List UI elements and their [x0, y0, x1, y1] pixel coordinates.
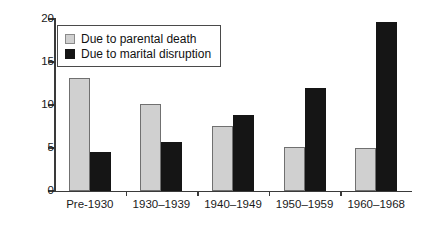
x-category-label: 1960–1968 — [331, 198, 421, 211]
legend-label: Due to marital disruption — [81, 48, 211, 60]
y-tick-label: 20 — [12, 13, 54, 25]
bar-chart: 05101520 Pre-19301930–19391940–19491950–… — [0, 0, 434, 231]
bar — [305, 88, 326, 191]
legend-label: Due to parental death — [81, 33, 196, 45]
bar — [233, 115, 254, 191]
bar — [90, 152, 111, 191]
x-tick-mark — [126, 191, 128, 196]
chart-legend: Due to parental death Due to marital dis… — [57, 25, 221, 67]
x-tick-mark — [197, 191, 199, 196]
bar — [212, 126, 233, 191]
legend-swatch-grey-icon — [65, 34, 75, 44]
y-tick-label: 5 — [12, 142, 54, 154]
y-tick-label: 10 — [12, 99, 54, 111]
legend-item-parental-death: Due to parental death — [65, 31, 211, 46]
bar — [69, 78, 90, 191]
bar — [376, 22, 397, 191]
legend-swatch-black-icon — [65, 49, 75, 59]
plot-area: 05101520 Pre-19301930–19391940–19491950–… — [0, 0, 434, 231]
y-tick-label: 15 — [12, 56, 54, 68]
bar — [161, 142, 182, 191]
legend-item-marital-disruption: Due to marital disruption — [65, 46, 211, 61]
y-axis-line — [54, 18, 56, 192]
bar — [284, 147, 305, 191]
x-tick-mark — [340, 191, 342, 196]
y-tick-label: 0 — [12, 185, 54, 197]
x-tick-mark — [269, 191, 271, 196]
bar — [140, 104, 161, 191]
bar — [355, 148, 376, 191]
